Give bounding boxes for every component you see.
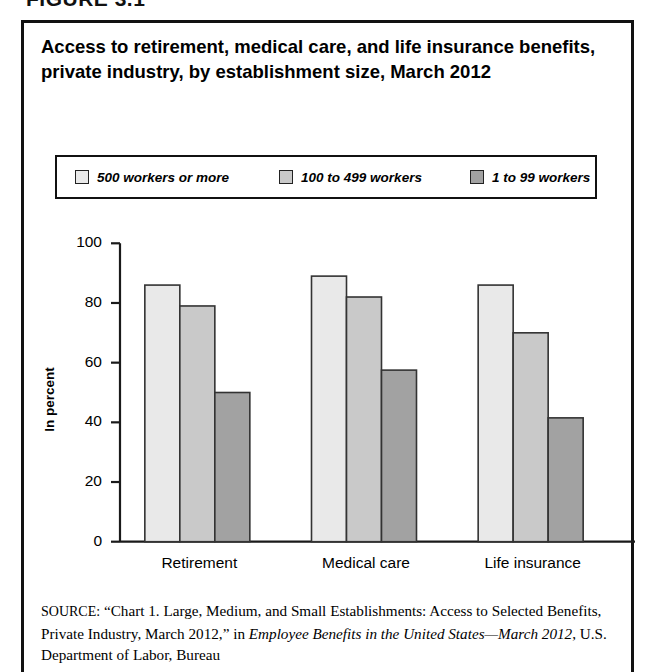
y-axis-title: In percent	[42, 350, 57, 450]
source-prefix: SOURCE:	[41, 604, 100, 619]
y-tick-label: 100	[56, 233, 102, 251]
legend-item-100-to-499-workers[interactable]: 100 to 499 workers	[279, 170, 422, 185]
figure-number-label: FIGURE 3.1	[26, 0, 145, 11]
x-tick-label: Medical care	[283, 554, 450, 572]
chart-legend: 500 workers or more 100 to 499 workers 1…	[55, 155, 597, 199]
y-tick-label: 80	[56, 293, 102, 311]
y-tick-label: 60	[56, 353, 102, 371]
chart-title: Access to retirement, medical care, and …	[41, 34, 606, 84]
x-tick-label: Retirement	[116, 554, 283, 572]
legend-swatch-1-to-99-workers	[470, 170, 484, 184]
x-tick-label: Life insurance	[449, 554, 616, 572]
y-tick-label: 0	[56, 532, 102, 550]
figure-border-box	[21, 20, 634, 672]
y-tick-label: 20	[56, 472, 102, 490]
legend-swatch-500-workers-or-more	[75, 170, 89, 184]
legend-item-1-to-99-workers[interactable]: 1 to 99 workers	[470, 170, 590, 185]
source-publication-title: Employee Benefits in the United States—M…	[249, 625, 572, 642]
legend-swatch-100-to-499-workers	[279, 170, 293, 184]
legend-label-1-to-99-workers: 1 to 99 workers	[492, 170, 590, 185]
legend-item-500-workers-or-more[interactable]: 500 workers or more	[75, 170, 229, 185]
y-tick-label: 40	[56, 412, 102, 430]
legend-label-500-workers-or-more: 500 workers or more	[97, 170, 229, 185]
source-note: SOURCE: “Chart 1. Large, Medium, and Sma…	[41, 600, 616, 666]
legend-label-100-to-499-workers: 100 to 499 workers	[301, 170, 422, 185]
